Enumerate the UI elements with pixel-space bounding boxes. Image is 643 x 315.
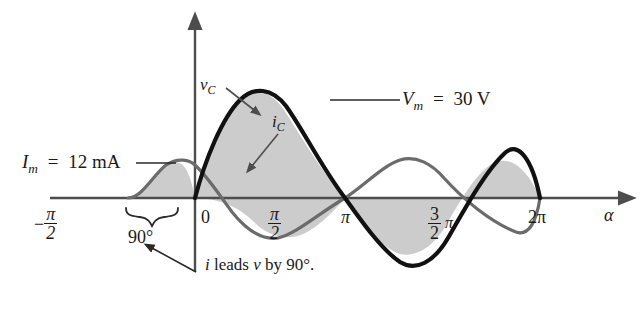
minus-sign: − — [34, 214, 44, 234]
curve-label-vc: vC — [200, 76, 215, 97]
half-pi-fraction: π2 — [268, 205, 281, 243]
im-subscript: m — [28, 161, 38, 176]
fraction-numerator: π — [44, 205, 57, 223]
xtick-zero: 0 — [201, 208, 210, 226]
vc-subscript: C — [208, 83, 216, 97]
note-i: i — [205, 255, 210, 274]
shaded-region — [128, 92, 540, 255]
vm-symbol: V — [402, 88, 414, 109]
fraction-numerator: π — [268, 205, 281, 223]
vc-base: v — [200, 75, 208, 94]
phase-brace-label: 90° — [128, 228, 153, 246]
phase-note: i leads v by 90°. — [205, 256, 314, 273]
note-by: by 90°. — [265, 255, 314, 274]
fraction-denominator: 2 — [268, 223, 281, 242]
im-equals: = — [43, 151, 64, 172]
xtick-three-halves-pi: 32π — [428, 205, 453, 243]
note-leads: leads — [214, 255, 249, 274]
three-halves-pi-suffix: π — [441, 214, 453, 231]
vm-equals: = — [428, 88, 449, 109]
capacitor-waveform-figure: vC iC Vm = 30 V Im = 12 mA −π2 0 π2 π 32… — [0, 0, 643, 315]
im-annotation: Im = 12 mA — [22, 152, 120, 175]
xtick-minus-half-pi: −π2 — [34, 205, 57, 243]
ic-subscript: C — [277, 120, 285, 134]
three-halves-fraction: 32 — [428, 205, 441, 243]
curve-label-ic: iC — [272, 113, 285, 134]
fraction-numerator: 3 — [428, 205, 441, 223]
fraction-denominator: 2 — [44, 223, 57, 242]
im-value: 12 mA — [68, 151, 120, 172]
minus-half-pi-fraction: π2 — [44, 205, 57, 243]
vm-value: 30 V — [453, 88, 490, 109]
xtick-half-pi: π2 — [268, 205, 281, 243]
note-leader-arrow — [152, 248, 196, 272]
phase-brace — [126, 208, 178, 226]
x-axis-label-alpha: α — [604, 206, 613, 224]
note-v: v — [253, 255, 261, 274]
fraction-denominator: 2 — [428, 223, 441, 242]
xtick-two-pi: 2π — [528, 208, 546, 226]
vm-subscript: m — [414, 98, 424, 113]
xtick-pi: π — [341, 208, 350, 226]
vm-annotation: Vm = 30 V — [402, 89, 491, 112]
